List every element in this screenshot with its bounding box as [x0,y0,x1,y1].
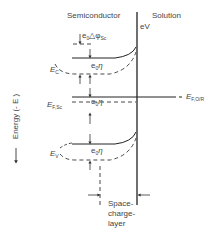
y-axis-label: Energy (- E ) [11,92,20,142]
ef-sc-label: EF,Sc [47,101,62,110]
ev-solid [72,132,136,144]
evb-label: EV [50,150,59,159]
e0eta-label-3: e0η [91,147,103,156]
e0eta-label-1: e0η [91,62,103,71]
delta-phi-label: e0△φSc [82,32,106,41]
ec-label: EC [50,66,59,75]
e0eta-label-2: e0η [91,98,103,107]
ef-redox-label: EF,O/R [186,93,204,102]
ec-solid [72,47,136,58]
header-semiconductor: Semiconductor [67,12,120,20]
space-charge-label: Space- charge- layer [108,199,135,229]
ev-label: eV [140,23,150,31]
header-solution: Solution [152,12,181,20]
